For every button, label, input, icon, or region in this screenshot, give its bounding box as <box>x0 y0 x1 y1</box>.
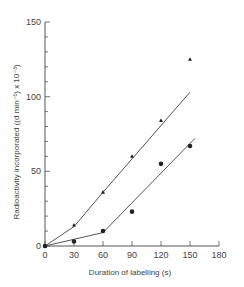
y-tick-label: 50 <box>31 166 41 176</box>
triangle-marker <box>130 154 134 158</box>
x-axis-label: Duration of labelling (s) <box>89 268 172 277</box>
x-tick-label: 60 <box>98 250 108 260</box>
y-tick-label: 0 <box>36 241 41 251</box>
circles-fit-line <box>45 138 195 246</box>
circle-marker <box>159 162 164 167</box>
circle-marker <box>101 229 106 234</box>
circle-marker <box>130 209 135 214</box>
x-tick-label: 150 <box>182 250 197 260</box>
x-tick-label: 180 <box>211 250 226 260</box>
triangles-fit-line <box>45 92 190 246</box>
circle-marker <box>43 244 48 249</box>
triangle-marker <box>159 118 163 122</box>
chart: 0501001500306090120150180Duration of lab… <box>0 0 244 287</box>
y-axis-label: Radioactivity incorporated ((d min⁻¹) x … <box>12 64 21 219</box>
x-tick-label: 90 <box>127 250 137 260</box>
y-tick-label: 100 <box>26 92 41 102</box>
x-tick-label: 120 <box>153 250 168 260</box>
triangle-marker <box>188 57 192 61</box>
x-tick-label: 0 <box>42 250 47 260</box>
x-tick-label: 30 <box>69 250 79 260</box>
circle-marker <box>72 239 77 244</box>
y-tick-label: 150 <box>26 17 41 27</box>
circle-marker <box>188 144 193 149</box>
